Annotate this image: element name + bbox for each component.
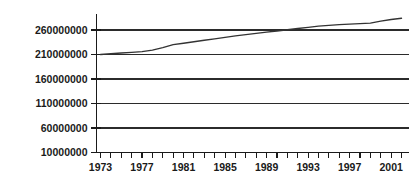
chart-canvas: 1000000060000000110000000160000000210000… [0,0,413,186]
x-tick-label: 1985 [213,161,237,173]
y-axis [91,14,101,153]
x-tick-label: 2001 [379,161,403,173]
data-series [101,18,402,54]
y-tick-label: 260000000 [35,24,88,36]
gridlines [97,30,410,128]
x-tick-label: 1977 [130,161,154,173]
y-tick-label: 210000000 [35,48,88,60]
x-tick-label: 1973 [89,161,113,173]
y-tick-label: 160000000 [35,73,88,85]
x-tick-labels: 19731977198119851989199319972001 [89,161,403,173]
series-line [101,18,402,54]
y-tick-label: 110000000 [36,97,88,109]
x-tick-label: 1997 [338,161,362,173]
y-tick-label: 10000000 [41,146,88,158]
line-chart: 1000000060000000110000000160000000210000… [0,0,413,186]
x-tick-label: 1993 [296,161,320,173]
x-tick-label: 1989 [255,161,279,173]
y-tick-labels: 1000000060000000110000000160000000210000… [35,24,88,159]
x-axis [91,153,409,158]
x-tick-label: 1981 [172,161,196,173]
y-tick-label: 60000000 [41,122,88,134]
